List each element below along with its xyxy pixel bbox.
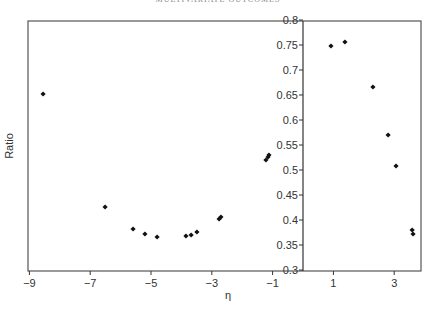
data-point xyxy=(410,231,415,236)
data-point xyxy=(393,163,398,168)
y-tick-label: 0.65 xyxy=(277,89,298,101)
data-point xyxy=(183,233,188,238)
data-point xyxy=(40,91,45,96)
plot-frame xyxy=(28,21,421,271)
data-point xyxy=(130,226,135,231)
x-tick-label: −1 xyxy=(266,277,279,289)
data-point xyxy=(370,84,375,89)
y-tick-label: 0.4 xyxy=(283,214,298,226)
scatter-chart: 0.30.350.40.450.50.550.60.650.70.750.8 −… xyxy=(0,0,436,314)
y-tick-label: 0.3 xyxy=(283,264,298,276)
x-tick-label: −7 xyxy=(84,277,97,289)
data-point xyxy=(154,234,159,239)
y-tick-label: 0.7 xyxy=(283,64,298,76)
y-tick-label: 0.75 xyxy=(277,39,298,51)
data-point xyxy=(102,204,107,209)
y-axis: 0.30.350.40.450.50.550.60.650.70.750.8 xyxy=(277,14,303,276)
y-axis-title: Ratio xyxy=(3,133,15,159)
data-point xyxy=(194,229,199,234)
y-tick-label: 0.6 xyxy=(283,114,298,126)
x-axis-title: η xyxy=(225,289,231,301)
y-tick-label: 0.55 xyxy=(277,139,298,151)
data-point xyxy=(142,231,147,236)
x-tick-label: −3 xyxy=(206,277,219,289)
x-axis: −9−7−5−3−113 xyxy=(23,271,397,289)
data-points xyxy=(40,39,415,239)
data-point xyxy=(386,132,391,137)
plot-border xyxy=(28,21,421,271)
x-tick-label: −5 xyxy=(145,277,158,289)
data-point xyxy=(410,227,415,232)
x-tick-label: 1 xyxy=(330,277,336,289)
data-point xyxy=(342,39,347,44)
y-tick-label: 0.45 xyxy=(277,189,298,201)
y-tick-label: 0.8 xyxy=(283,14,298,26)
data-point xyxy=(328,43,333,48)
data-point xyxy=(189,232,194,237)
y-tick-label: 0.5 xyxy=(283,164,298,176)
y-tick-label: 0.35 xyxy=(277,239,298,251)
x-tick-label: −9 xyxy=(23,277,36,289)
x-tick-label: 3 xyxy=(391,277,397,289)
